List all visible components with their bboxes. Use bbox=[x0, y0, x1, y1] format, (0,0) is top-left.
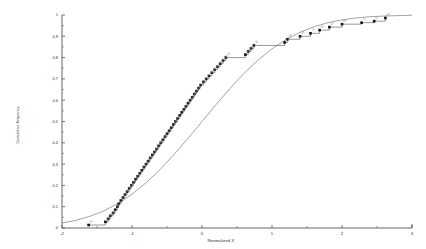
data-point-marker bbox=[384, 17, 387, 20]
data-point-label: 14 bbox=[311, 27, 316, 32]
axes-group bbox=[62, 15, 412, 228]
data-point-marker bbox=[373, 20, 376, 23]
data-point-marker bbox=[341, 23, 344, 26]
data-marker-group bbox=[87, 17, 386, 227]
cumulative-frequency-plot: 3760294517523811622549335821074466135028… bbox=[0, 0, 426, 249]
data-point-marker bbox=[244, 53, 247, 56]
data-point-label: 65 bbox=[320, 24, 325, 29]
y-tick-label: 0.1 bbox=[53, 204, 58, 209]
data-point-label: 06 bbox=[226, 51, 231, 56]
x-tick-label: -2 bbox=[60, 231, 64, 236]
y-tick-label: 0.2 bbox=[53, 183, 58, 188]
data-point-marker bbox=[360, 21, 363, 24]
y-axis-title-wrap: Cumulative frequency bbox=[4, 0, 18, 249]
data-point-marker bbox=[328, 26, 331, 29]
data-point-marker bbox=[309, 32, 312, 35]
y-tick-label: 0 bbox=[56, 225, 59, 230]
y-tick-label: 0.7 bbox=[53, 76, 58, 81]
data-point-marker bbox=[299, 35, 302, 38]
y-tick-label: 0.5 bbox=[53, 119, 58, 124]
x-axis-title: Normalized X bbox=[0, 238, 426, 243]
data-point-marker bbox=[283, 41, 286, 44]
reference-curve bbox=[62, 15, 412, 223]
y-tick-label: 1 bbox=[56, 12, 58, 17]
reference-curve-group bbox=[62, 15, 412, 223]
tick-label-group: 00.10.20.30.40.50.60.70.80.91-2-10123 bbox=[53, 12, 414, 235]
x-tick-label: 3 bbox=[411, 231, 414, 236]
y-tick-label: 0.9 bbox=[53, 34, 58, 39]
step-line-group bbox=[89, 18, 386, 225]
y-tick-label: 0.3 bbox=[53, 162, 58, 167]
data-point-label: 37 bbox=[89, 219, 94, 224]
y-tick-label: 0.8 bbox=[53, 55, 58, 60]
y-axis-title: Cumulative frequency bbox=[16, 85, 20, 165]
x-tick-label: -1 bbox=[130, 231, 134, 236]
chart-root: 3760294517523811622549335821074466135028… bbox=[0, 0, 426, 249]
data-point-label: 35 bbox=[254, 39, 259, 44]
data-point-label: 56 bbox=[287, 33, 292, 38]
y-tick-label: 0.6 bbox=[53, 98, 58, 103]
data-point-label: 68 bbox=[342, 18, 347, 23]
data-point-marker bbox=[318, 29, 321, 32]
step-line bbox=[89, 18, 386, 225]
y-tick-label: 0.4 bbox=[53, 140, 59, 145]
x-tick-label: 0 bbox=[201, 231, 204, 236]
data-point-label: 67 bbox=[374, 15, 379, 20]
data-point-marker bbox=[104, 221, 107, 224]
x-tick-label: 2 bbox=[341, 231, 344, 236]
x-axis-title-text: Normalized X bbox=[208, 238, 235, 243]
x-tick-label: 1 bbox=[271, 231, 274, 236]
data-point-marker bbox=[87, 224, 90, 227]
